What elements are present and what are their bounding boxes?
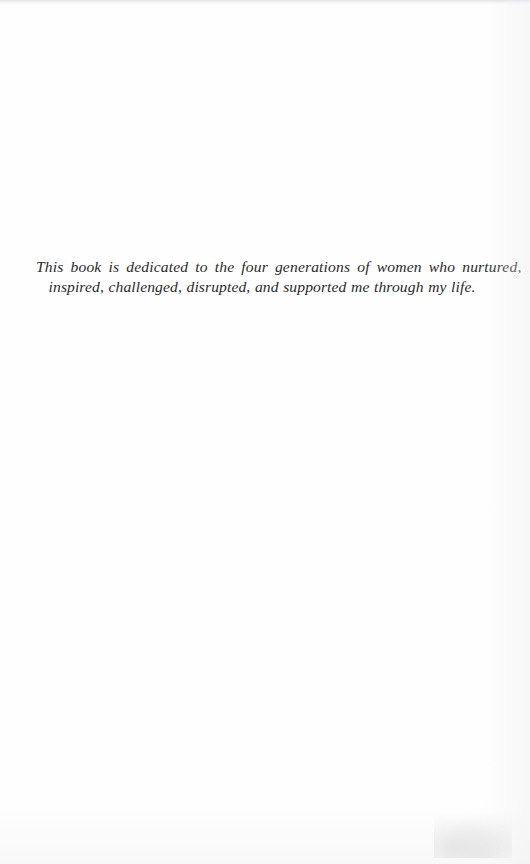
scan-top-edge-artifact xyxy=(0,0,530,5)
dedication-line-2: inspired, challenged, disrupted, and sup… xyxy=(36,277,488,297)
dedication-text-block: This book is dedicated to the four gener… xyxy=(36,257,488,297)
book-page: This book is dedicated to the four gener… xyxy=(0,0,530,864)
scan-vignette-artifact xyxy=(0,0,530,864)
dedication-line-1: This book is dedicated to the four gener… xyxy=(36,257,488,277)
scan-speckle-artifact xyxy=(434,806,512,858)
